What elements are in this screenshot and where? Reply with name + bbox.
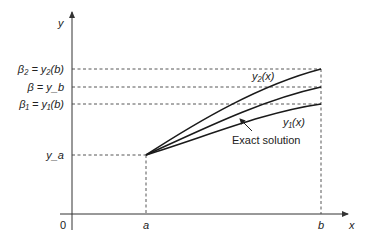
curve-y1 <box>146 104 321 155</box>
y1-curve-label: y₁(x) <box>282 116 305 128</box>
beta-label: β = y_b <box>26 81 64 93</box>
ya-label: y_a <box>45 149 64 161</box>
beta1-label: β₁ = y₁(b) <box>18 98 64 110</box>
exact-solution-label: Exact solution <box>232 134 300 146</box>
y2-curve-label: y₂(x) <box>251 70 275 82</box>
x-tick-a: a <box>143 219 149 231</box>
beta2-label: β₂ = y₂(b) <box>17 63 64 75</box>
origin-label: 0 <box>60 219 66 231</box>
y-axis-label: y <box>57 17 65 29</box>
x-axis-label: x <box>348 219 355 231</box>
shooting-method-diagram: y x 0 a b β₂ = y₂(b) β = y_b β₁ = y₁(b) … <box>0 0 382 244</box>
x-tick-b: b <box>318 219 324 231</box>
